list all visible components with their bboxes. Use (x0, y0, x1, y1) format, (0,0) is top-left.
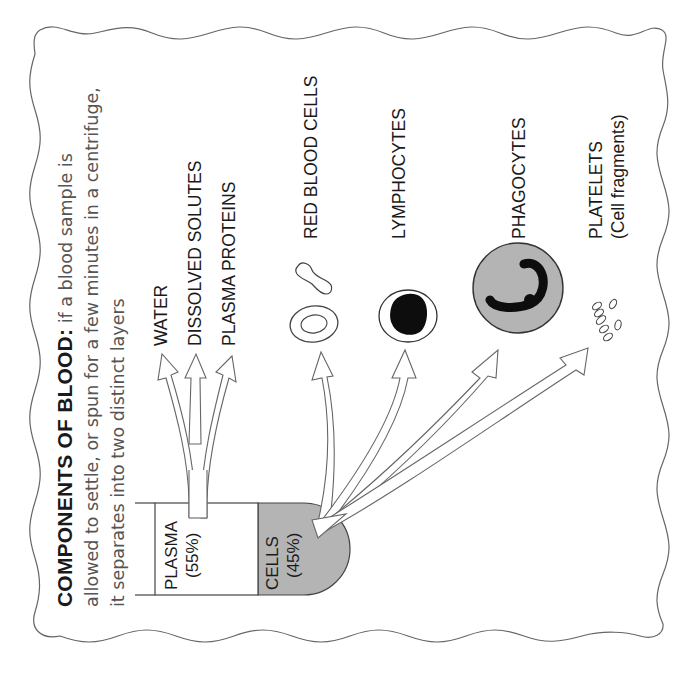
label-water: WATER (153, 285, 171, 346)
lymphocyte-icon (379, 290, 437, 342)
diagram-graphics (0, 0, 695, 688)
arrow-to-platelets (316, 348, 588, 532)
title-line-3: it separates into two distinct layers (110, 298, 128, 607)
label-cells-percent: (45%) (285, 533, 302, 578)
label-plasma: PLASMA (163, 521, 180, 590)
label-phagocytes: PHAGOCYTES (511, 117, 529, 239)
label-cell-fragments: (Cell fragments) (610, 115, 628, 239)
phagocyte-icon (473, 243, 563, 333)
title-line-1: COMPONENTS OF BLOOD: if a blood sample i… (54, 153, 76, 607)
red-blood-cell-icon (288, 263, 341, 345)
label-cells: CELLS (264, 536, 281, 590)
title-description: if a blood sample is (56, 153, 76, 329)
label-lymphocytes: LYMPHOCYTES (391, 108, 409, 239)
label-plasma-proteins: PLASMA PROTEINS (221, 182, 239, 346)
label-dissolved-solutes: DISSOLVED SOLUTES (187, 161, 205, 346)
title-line-2: allowed to settle, or spun for a few min… (84, 87, 102, 607)
rbc-side-view (296, 263, 332, 294)
label-red-blood-cells: RED BLOOD CELLS (303, 76, 321, 239)
cell-arrows (312, 348, 588, 538)
arrow-to-dissolved-solutes (185, 354, 206, 444)
plasma-arrows (158, 354, 236, 518)
arrow-to-red-blood-cells (312, 352, 334, 522)
label-plasma-percent: (55%) (184, 533, 201, 578)
label-platelets: PLATELETS (588, 141, 606, 239)
page-title: COMPONENTS OF BLOOD: (53, 329, 76, 607)
blood-components-diagram: COMPONENTS OF BLOOD: if a blood sample i… (0, 0, 695, 688)
platelets-icon (591, 298, 622, 342)
